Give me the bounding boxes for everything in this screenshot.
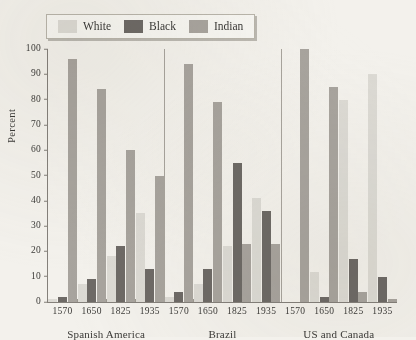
bar-indian-brazil-1650 <box>213 102 222 302</box>
bar-black-spanish-america-1650 <box>87 279 96 302</box>
y-tick-0: 0 <box>7 297 48 307</box>
ghost-title <box>236 1 406 12</box>
x-year-label: 1570 <box>169 306 189 316</box>
y-tick-label: 70 <box>31 119 41 129</box>
legend-swatch-indian <box>189 20 208 33</box>
bar-white-brazil-1570 <box>165 297 174 302</box>
bar-white-us-and-canada-1935 <box>368 74 377 302</box>
bar-white-brazil-1935 <box>252 198 261 302</box>
y-tick-50: 50 <box>7 171 48 181</box>
y-axis-title: Percent <box>6 109 17 143</box>
bar-indian-us-and-canada-1650 <box>329 87 338 302</box>
bar-black-spanish-america-1825 <box>116 246 125 302</box>
bar-white-brazil-1650 <box>194 284 203 302</box>
legend-swatch-black <box>124 20 143 33</box>
x-group-label: US and Canada <box>303 328 374 340</box>
bar-black-us-and-canada-1650 <box>320 297 329 302</box>
bar-black-brazil-1825 <box>233 163 242 302</box>
x-year-label: 1825 <box>343 306 363 316</box>
x-year-label: 1825 <box>111 306 131 316</box>
plot-area: 01020304050607080901001570165018251935Sp… <box>48 49 397 302</box>
y-tick-40: 40 <box>7 196 48 206</box>
y-tick-label: 60 <box>31 144 41 154</box>
bar-indian-spanish-america-1570 <box>68 59 77 302</box>
x-year-label: 1570 <box>285 306 305 316</box>
bar-indian-spanish-america-1825 <box>126 150 135 302</box>
bar-indian-us-and-canada-1935 <box>388 299 397 302</box>
bar-white-us-and-canada-1650 <box>310 272 319 302</box>
legend-item-indian[interactable]: Indian <box>189 20 243 33</box>
bar-white-us-and-canada-1825 <box>339 100 348 302</box>
y-tick-label: 100 <box>26 43 41 53</box>
x-year-label: 1650 <box>198 306 218 316</box>
y-tick-label: 90 <box>31 69 41 79</box>
bar-white-spanish-america-1935 <box>136 213 145 302</box>
y-tick-30: 30 <box>7 221 48 231</box>
x-year-label: 1650 <box>314 306 334 316</box>
bar-black-brazil-1935 <box>262 211 271 302</box>
group-separator <box>164 49 165 302</box>
legend-item-white[interactable]: White <box>58 20 111 33</box>
bar-white-spanish-america-1825 <box>107 256 116 302</box>
bar-indian-brazil-1935 <box>271 244 280 302</box>
legend-label: Black <box>149 21 176 33</box>
y-tick-80: 80 <box>7 95 48 105</box>
bar-indian-us-and-canada-1570 <box>300 49 309 302</box>
x-axis-line <box>47 302 397 303</box>
y-tick-90: 90 <box>7 70 48 80</box>
legend-item-black[interactable]: Black <box>124 20 176 33</box>
bar-indian-brazil-1825 <box>242 244 251 302</box>
legend-label: White <box>83 21 111 33</box>
x-year-label: 1570 <box>52 306 72 316</box>
bar-white-spanish-america-1650 <box>78 284 87 302</box>
y-tick-label: 80 <box>31 94 41 104</box>
bar-black-us-and-canada-1825 <box>349 259 358 302</box>
legend-label: Indian <box>214 21 243 33</box>
y-tick-60: 60 <box>7 145 48 155</box>
y-tick-100: 100 <box>7 44 48 54</box>
bar-indian-us-and-canada-1825 <box>358 292 367 302</box>
bar-indian-brazil-1570 <box>184 64 193 302</box>
bar-white-spanish-america-1570 <box>48 299 57 302</box>
bar-black-brazil-1650 <box>203 269 212 302</box>
bar-black-spanish-america-1935 <box>145 269 154 302</box>
y-tick-label: 10 <box>31 271 41 281</box>
group-separator <box>281 49 282 302</box>
legend-swatch-white <box>58 20 77 33</box>
y-tick-10: 10 <box>7 272 48 282</box>
y-tick-label: 30 <box>31 220 41 230</box>
x-group-label: Spanish America <box>67 328 145 340</box>
x-group-label: Brazil <box>208 328 236 340</box>
bar-black-spanish-america-1570 <box>58 297 67 302</box>
x-year-label: 1650 <box>82 306 102 316</box>
x-year-label: 1825 <box>227 306 247 316</box>
x-year-label: 1935 <box>372 306 392 316</box>
bar-indian-spanish-america-1650 <box>97 89 106 302</box>
y-tick-label: 40 <box>31 195 41 205</box>
y-tick-label: 0 <box>36 296 41 306</box>
bar-indian-spanish-america-1935 <box>155 176 164 303</box>
bar-black-us-and-canada-1935 <box>378 277 387 302</box>
x-year-label: 1935 <box>256 306 276 316</box>
bar-white-brazil-1825 <box>223 246 232 302</box>
bar-black-brazil-1570 <box>174 292 183 302</box>
y-tick-label: 20 <box>31 246 41 256</box>
chart-legend: WhiteBlackIndian <box>46 14 255 39</box>
x-year-label: 1935 <box>140 306 160 316</box>
y-tick-20: 20 <box>7 247 48 257</box>
y-tick-label: 50 <box>31 170 41 180</box>
